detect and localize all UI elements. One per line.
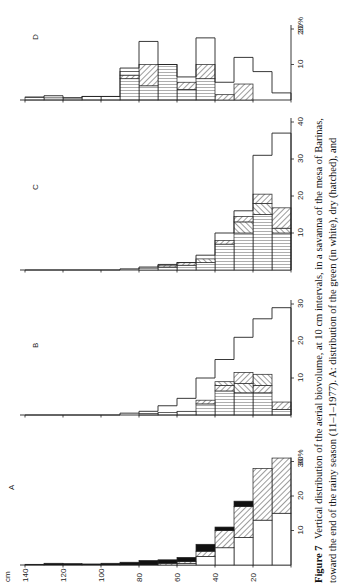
height-tick-label: 120 bbox=[59, 568, 68, 582]
bar-segment bbox=[272, 409, 291, 415]
height-tick-label: 140 bbox=[21, 568, 30, 582]
bar-segment bbox=[215, 548, 234, 565]
caption-figure-label: Figure 7 bbox=[313, 546, 324, 583]
height-tick-label: 80 bbox=[135, 573, 144, 582]
bar-segment bbox=[158, 267, 177, 270]
percent-tick-label: 10 bbox=[296, 525, 305, 534]
height-tick-label: 40 bbox=[211, 573, 220, 582]
caption-line-2: toward the end of the rainy season (11–1… bbox=[327, 137, 339, 583]
bar-segment bbox=[253, 194, 272, 203]
bar-segment bbox=[196, 400, 215, 404]
bar-segment bbox=[44, 98, 63, 100]
panel-d: 102020 %D bbox=[20, 17, 305, 103]
caption-line1-text: Vertical distribution of the aerial biov… bbox=[313, 118, 324, 539]
bar-segment bbox=[177, 557, 196, 561]
panel-c: 10203040C bbox=[20, 117, 305, 273]
bar-segment bbox=[234, 537, 253, 565]
bar-segment bbox=[139, 65, 158, 86]
panel-label: B bbox=[31, 343, 40, 348]
bar-segment bbox=[158, 265, 177, 267]
bar-segment bbox=[253, 385, 272, 392]
bar-segment bbox=[272, 513, 291, 565]
bar-segment bbox=[234, 216, 253, 222]
bar-segment bbox=[215, 527, 234, 530]
bar-segment bbox=[25, 564, 44, 565]
panel-a: 10203030 %A bbox=[7, 449, 305, 567]
bar-segment bbox=[177, 89, 196, 100]
bar-segment bbox=[253, 215, 272, 271]
percent-tick-label: 10 bbox=[296, 373, 305, 382]
bar-segment bbox=[196, 79, 215, 100]
caption-line-1: Figure 7 Vertical distribution of the ae… bbox=[313, 118, 324, 583]
figure-7-chart: 10203030 %A102030B10203040C102020 %D 140… bbox=[0, 0, 341, 585]
bar-segment bbox=[63, 564, 82, 565]
bar-segment bbox=[234, 84, 253, 100]
bar-segment bbox=[158, 560, 177, 563]
bar-segment bbox=[215, 382, 234, 386]
bar-segment bbox=[120, 75, 139, 79]
bar-segment bbox=[101, 96, 120, 100]
bar-segment bbox=[139, 268, 158, 270]
percent-tick-label: 20 bbox=[296, 336, 305, 345]
panel-label: C bbox=[31, 184, 40, 190]
bar-segment bbox=[101, 563, 120, 565]
bar-segment bbox=[139, 86, 158, 100]
bar-segment bbox=[139, 561, 158, 565]
height-tick-label: 100 bbox=[97, 568, 106, 582]
bar-segment bbox=[158, 412, 177, 415]
bar-segment bbox=[196, 551, 215, 556]
bar-segment bbox=[120, 562, 139, 565]
bar-segment bbox=[234, 372, 253, 383]
bar-segment bbox=[234, 506, 253, 537]
bar-segment bbox=[158, 65, 177, 101]
height-axis: 14012010080604020cm bbox=[3, 568, 258, 582]
percent-unit-label: 30 % bbox=[296, 449, 305, 467]
bar-segment bbox=[272, 233, 291, 270]
percent-tick-label: 40 bbox=[296, 117, 305, 126]
bar-segment bbox=[215, 240, 234, 244]
panel-label: D bbox=[31, 34, 40, 40]
bar-segment bbox=[253, 374, 272, 385]
bar-segment bbox=[215, 244, 234, 270]
bar-segment bbox=[215, 531, 234, 548]
bar-segment bbox=[272, 208, 291, 228]
chart-panels: 10203030 %A102030B10203040C102020 %D bbox=[7, 17, 305, 568]
bar-segment bbox=[196, 404, 215, 415]
bar-segment bbox=[253, 203, 272, 214]
bar-segment bbox=[82, 96, 101, 100]
bar-segment bbox=[139, 414, 158, 415]
bar-segment bbox=[234, 384, 253, 393]
panel-b: 102030B bbox=[20, 299, 305, 418]
percent-tick-label: 30 bbox=[296, 154, 305, 163]
bar-segment bbox=[234, 233, 253, 270]
bar-segment bbox=[272, 402, 291, 409]
bar-segment bbox=[120, 79, 139, 100]
percent-tick-label: 10 bbox=[296, 228, 305, 237]
bar-segment bbox=[253, 468, 272, 520]
percent-unit-label: 20 % bbox=[296, 17, 305, 35]
bar-segment bbox=[82, 564, 101, 565]
bar-segment bbox=[120, 72, 139, 76]
percent-tick-label: 30 bbox=[296, 299, 305, 308]
bar-segment bbox=[253, 393, 272, 415]
height-unit-label: cm bbox=[3, 571, 12, 582]
bar-segment bbox=[196, 556, 215, 565]
bar-segment bbox=[44, 563, 63, 565]
bar-segment bbox=[196, 544, 215, 551]
bar-segment bbox=[272, 458, 291, 513]
bar-segment bbox=[215, 391, 234, 415]
bar-segment bbox=[234, 501, 253, 506]
bar-segment bbox=[234, 222, 253, 233]
bar-segment bbox=[215, 385, 234, 391]
panel-label: A bbox=[7, 484, 16, 490]
height-tick-label: 20 bbox=[249, 573, 258, 582]
percent-tick-label: 20 bbox=[296, 491, 305, 500]
bar-segment bbox=[234, 393, 253, 415]
bar-segment bbox=[177, 411, 196, 415]
bar-segment bbox=[196, 263, 215, 270]
bar-segment bbox=[253, 520, 272, 565]
bar-segment bbox=[196, 259, 215, 263]
bar-segment bbox=[177, 265, 196, 270]
bar-segment bbox=[177, 82, 196, 89]
height-tick-label: 60 bbox=[173, 573, 182, 582]
